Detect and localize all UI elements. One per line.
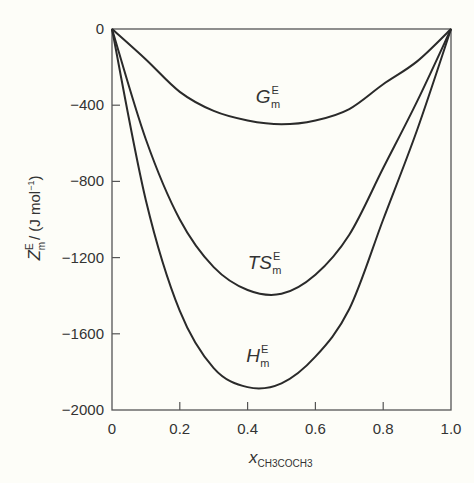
plot-border	[112, 29, 451, 410]
curve-label-ts: TSEm	[248, 250, 282, 276]
curve-label-h: HEm	[246, 343, 269, 369]
y-tick-label: −2000	[62, 401, 104, 418]
chart: 0−400−800−1200−1600−2000 00.20.40.60.81.…	[0, 0, 474, 483]
x-axis-title: xCH3COCH3	[248, 448, 313, 469]
curve-label-g: GEm	[256, 84, 280, 110]
x-tick-label: 1.0	[441, 420, 462, 437]
x-tick-label: 0	[108, 420, 116, 437]
x-tick-label: 0.8	[373, 420, 394, 437]
curve-ts	[112, 29, 451, 295]
y-tick-label: −400	[70, 96, 104, 113]
x-tick-label: 0.2	[169, 420, 190, 437]
x-tick-label: 0.4	[237, 420, 258, 437]
y-tick-label: 0	[96, 20, 104, 37]
y-tick-label: −800	[70, 172, 104, 189]
plot-frame	[112, 29, 451, 410]
x-tick-label: 0.6	[305, 420, 326, 437]
y-axis-title: ZEm/ (J mol−1)	[24, 176, 47, 262]
y-tick-label: −1200	[62, 249, 104, 266]
x-axis-ticks: 00.20.40.60.81.0	[108, 402, 462, 437]
curve-g	[112, 29, 451, 124]
data-curves	[112, 29, 451, 388]
svg-text:ZEm/ (J mol−1): ZEm/ (J mol−1)	[24, 176, 47, 262]
y-axis-ticks: 0−400−800−1200−1600−2000	[62, 20, 120, 418]
curve-labels: GEmTSEmHEm	[246, 84, 281, 369]
y-tick-label: −1600	[62, 325, 104, 342]
curve-h	[112, 29, 451, 388]
